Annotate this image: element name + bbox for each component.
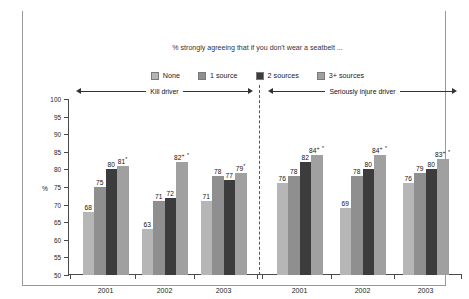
legend-swatch-icon — [198, 72, 206, 80]
legend-swatch-icon — [317, 72, 325, 80]
legend-item-1-source: 1 source — [198, 71, 238, 80]
y-axis-tick: 50 — [64, 275, 69, 276]
legend-label: 2 sources — [268, 71, 299, 80]
x-axis-tick — [394, 274, 395, 279]
bar-value-label: 77 — [226, 172, 233, 179]
bar-value-label: 80 — [365, 161, 372, 168]
bar-value-label: 79* — [236, 163, 246, 172]
arrow-line — [81, 91, 146, 92]
bar: 81* — [117, 166, 129, 275]
bar: 84+ * — [311, 155, 323, 275]
bar-value-label: 69 — [342, 200, 349, 207]
bar: 69 — [340, 208, 352, 275]
panel-header-seriously-injure-driver: Seriously injure driver — [268, 85, 457, 97]
bar: 76 — [403, 183, 415, 275]
bar: 84+ * — [374, 155, 386, 275]
legend-swatch-icon — [151, 72, 159, 80]
bar-value-label: 83+ * — [435, 149, 450, 158]
y-axis-tick-label: 55 — [54, 254, 61, 261]
y-axis-tick: 60 — [64, 240, 69, 241]
bar: 77 — [224, 180, 236, 275]
x-axis-tick — [135, 274, 136, 279]
arrow-right-icon — [248, 88, 253, 94]
y-axis-tick-label: 80 — [54, 166, 61, 173]
arrow-line — [183, 91, 248, 92]
bar-value-label: 80 — [108, 161, 115, 168]
bar-value-label: 78 — [214, 168, 221, 175]
significance-marker: + * — [442, 149, 450, 155]
bar-value-label: 82 — [302, 154, 309, 161]
x-axis-label: 2003 — [418, 287, 434, 294]
bar: 80 — [363, 169, 375, 275]
figure-frame: % strongly agreeing that if you don't we… — [22, 11, 446, 286]
bar-value-label: 84+ * — [372, 145, 387, 154]
y-axis-tick: 100 — [64, 99, 69, 100]
y-axis-tick-label: 85 — [54, 148, 61, 155]
bar-value-label: 71 — [155, 193, 162, 200]
y-axis-tick-label: 65 — [54, 219, 61, 226]
figure-subtitle: % strongly agreeing that if you don't we… — [23, 44, 469, 52]
significance-marker: + * — [316, 145, 324, 151]
x-axis-tick — [257, 274, 258, 279]
significance-marker: * — [125, 156, 128, 162]
panel-divider — [259, 85, 260, 275]
x-axis-tick — [262, 274, 263, 279]
bar-value-label: 79 — [416, 165, 423, 172]
bar: 72 — [165, 198, 177, 275]
y-axis-tick-label: 75 — [54, 184, 61, 191]
y-axis-title: % — [42, 185, 48, 192]
bar-value-label: 84+ * — [309, 145, 324, 154]
bar-value-label: 80 — [428, 161, 435, 168]
y-axis-tick-label: 90 — [54, 131, 61, 138]
bar-value-label: 63 — [144, 221, 151, 228]
bar: 80 — [426, 169, 438, 275]
legend-swatch-icon — [256, 72, 264, 80]
x-axis-label: 2001 — [98, 287, 114, 294]
y-axis-tick: 80 — [64, 169, 69, 170]
bar: 68 — [83, 212, 95, 275]
y-axis-tick-label: 70 — [54, 201, 61, 208]
panel-title: Seriously injure driver — [325, 88, 399, 95]
y-axis-tick: 55 — [64, 257, 69, 258]
y-axis-tick-label: 50 — [54, 272, 61, 279]
bar-value-label: 78 — [290, 168, 297, 175]
y-axis-tick: 85 — [64, 152, 69, 153]
y-axis-tick: 65 — [64, 222, 69, 223]
bar-value-label: 81* — [118, 156, 128, 165]
bar-value-label: 68 — [85, 204, 92, 211]
arrow-line — [273, 91, 325, 92]
panel-header-kill-driver: Kill driver — [76, 85, 253, 97]
x-axis-tick — [70, 274, 71, 279]
x-axis-label: 2002 — [355, 287, 371, 294]
y-axis-tick: 75 — [64, 187, 69, 188]
legend-item-3-sources: 3+ sources — [317, 71, 364, 80]
bar: 63 — [142, 229, 154, 275]
bar: 78 — [212, 176, 224, 275]
bar: 71 — [153, 201, 165, 275]
panel-title: Kill driver — [146, 88, 182, 95]
legend-item-none: None — [151, 71, 180, 80]
significance-marker: * — [243, 163, 246, 169]
significance-marker: + * — [181, 152, 189, 158]
legend-label: None — [163, 71, 180, 80]
bar: 75 — [94, 187, 106, 275]
bar: 78 — [288, 176, 300, 275]
bar: 71 — [201, 201, 213, 275]
bar-value-label: 82+ * — [174, 152, 189, 161]
arrow-line — [400, 91, 452, 92]
bar: 82 — [300, 162, 312, 275]
arrow-right-icon — [452, 88, 457, 94]
bar: 79* — [235, 173, 247, 275]
bar: 83+ * — [437, 159, 449, 275]
y-axis-tick: 90 — [64, 134, 69, 135]
bar: 82+ * — [176, 162, 188, 275]
x-axis-tick — [461, 274, 462, 279]
y-axis-tick-label: 60 — [54, 236, 61, 243]
x-axis-tick — [194, 274, 195, 279]
legend-label: 1 source — [210, 71, 238, 80]
significance-marker: + * — [379, 145, 387, 151]
y-axis-tick: 95 — [64, 117, 69, 118]
x-axis-tick — [331, 274, 332, 279]
bar-value-label: 75 — [96, 179, 103, 186]
plot-area: % 10095908580757065605550 Kill driverSer… — [68, 99, 461, 275]
